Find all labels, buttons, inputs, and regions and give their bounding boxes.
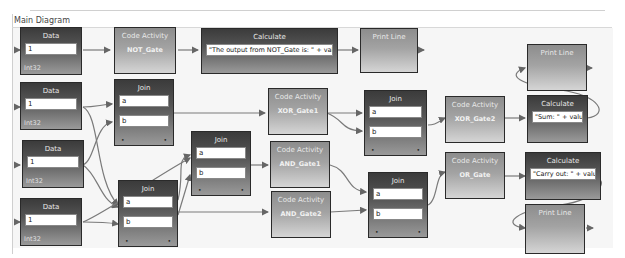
join-node-4[interactable]: Join a b •• bbox=[364, 90, 427, 156]
data-type-label: Int32 bbox=[24, 119, 41, 127]
join-input-b[interactable]: b bbox=[196, 167, 246, 179]
activity-name: XOR_Gate2 bbox=[446, 115, 504, 123]
node-header: Code Activity bbox=[272, 196, 330, 204]
node-header: Calculate bbox=[202, 33, 337, 41]
join-input-a[interactable]: a bbox=[369, 106, 422, 118]
code-activity-and-gate2[interactable]: Code Activity AND_Gate2 bbox=[271, 191, 331, 238]
node-header: Data bbox=[23, 145, 83, 153]
node-header: Code Activity bbox=[271, 146, 329, 154]
data-value-field[interactable]: 1 bbox=[25, 214, 77, 226]
node-header: Data bbox=[21, 32, 81, 40]
activity-name: AND_Gate1 bbox=[271, 160, 329, 168]
join-handles: •• bbox=[125, 237, 171, 244]
node-header: Calculate bbox=[526, 157, 600, 165]
node-header: Print Line bbox=[526, 209, 584, 217]
data-value-field[interactable]: 1 bbox=[27, 156, 79, 168]
data-type-label: Int32 bbox=[24, 235, 41, 243]
calculate-node-1[interactable]: Calculate "The output from NOT_Gate is: … bbox=[201, 28, 338, 74]
join-handles: •• bbox=[371, 146, 420, 153]
calculate-expression-field[interactable]: "The output from NOT_Gate is: " + value bbox=[206, 44, 333, 56]
join-input-b[interactable]: b bbox=[119, 115, 169, 127]
data-node-2[interactable]: Data 1 Int32 bbox=[20, 82, 82, 130]
node-header: Data bbox=[21, 87, 81, 95]
join-handles: •• bbox=[121, 136, 167, 143]
node-header: Join bbox=[192, 136, 250, 144]
print-line-node-1[interactable]: Print Line bbox=[360, 28, 418, 73]
node-header: Print Line bbox=[361, 33, 417, 41]
node-header: Print Line bbox=[528, 49, 586, 57]
calculate-node-2[interactable]: Calculate "Sum: " + value bbox=[527, 95, 588, 143]
calculate-expression-field[interactable]: "Carry out: " + value bbox=[530, 168, 596, 180]
node-header: Join bbox=[365, 95, 426, 103]
join-input-a[interactable]: a bbox=[123, 196, 173, 208]
node-header: Calculate bbox=[528, 100, 587, 108]
node-header: Code Activity bbox=[446, 157, 504, 165]
activity-name: AND_Gate2 bbox=[272, 210, 330, 218]
node-header: Join bbox=[115, 84, 173, 92]
join-node-2[interactable]: Join a b •• bbox=[191, 131, 251, 196]
data-node-1[interactable]: Data 1 Int32 bbox=[20, 27, 82, 75]
print-line-node-3[interactable]: Print Line bbox=[525, 204, 585, 254]
code-activity-xor-gate2[interactable]: Code Activity XOR_Gate2 bbox=[445, 96, 505, 143]
activity-name: NOT_Gate bbox=[115, 46, 175, 54]
join-input-a[interactable]: a bbox=[119, 95, 169, 107]
join-input-b[interactable]: b bbox=[123, 216, 173, 228]
join-handles: •• bbox=[198, 186, 244, 193]
data-type-label: Int32 bbox=[26, 177, 43, 185]
data-value-field[interactable]: 1 bbox=[25, 43, 77, 55]
join-input-b[interactable]: b bbox=[369, 126, 422, 138]
data-value-field[interactable]: 1 bbox=[25, 98, 77, 110]
join-input-b[interactable]: b bbox=[373, 208, 423, 220]
join-node-3[interactable]: Join a b •• bbox=[118, 180, 178, 247]
print-line-node-2[interactable]: Print Line bbox=[527, 44, 587, 91]
node-header: Data bbox=[21, 203, 81, 211]
join-node-5[interactable]: Join a b •• bbox=[368, 172, 428, 238]
code-activity-not-gate[interactable]: Code Activity NOT_Gate bbox=[114, 27, 176, 74]
calculate-expression-field[interactable]: "Sum: " + value bbox=[532, 111, 583, 123]
activity-name: OR_Gate bbox=[446, 171, 504, 179]
node-header: Join bbox=[369, 177, 427, 185]
calculate-node-3[interactable]: Calculate "Carry out: " + value bbox=[525, 152, 601, 200]
join-node-1[interactable]: Join a b •• bbox=[114, 79, 174, 146]
data-node-4[interactable]: Data 1 Int32 bbox=[20, 198, 82, 246]
node-header: Code Activity bbox=[446, 101, 504, 109]
activity-name: XOR_Gate1 bbox=[269, 107, 327, 115]
join-handles: •• bbox=[375, 228, 421, 235]
node-header: Code Activity bbox=[269, 93, 327, 101]
join-input-a[interactable]: a bbox=[373, 188, 423, 200]
code-activity-or-gate[interactable]: Code Activity OR_Gate bbox=[445, 152, 505, 199]
node-header: Code Activity bbox=[115, 32, 175, 40]
node-header: Join bbox=[119, 185, 177, 193]
code-activity-xor-gate1[interactable]: Code Activity XOR_Gate1 bbox=[268, 88, 328, 135]
data-node-3[interactable]: Data 1 Int32 bbox=[22, 140, 84, 188]
join-input-a[interactable]: a bbox=[196, 147, 246, 159]
code-activity-and-gate1[interactable]: Code Activity AND_Gate1 bbox=[270, 141, 330, 188]
data-type-label: Int32 bbox=[24, 64, 41, 72]
